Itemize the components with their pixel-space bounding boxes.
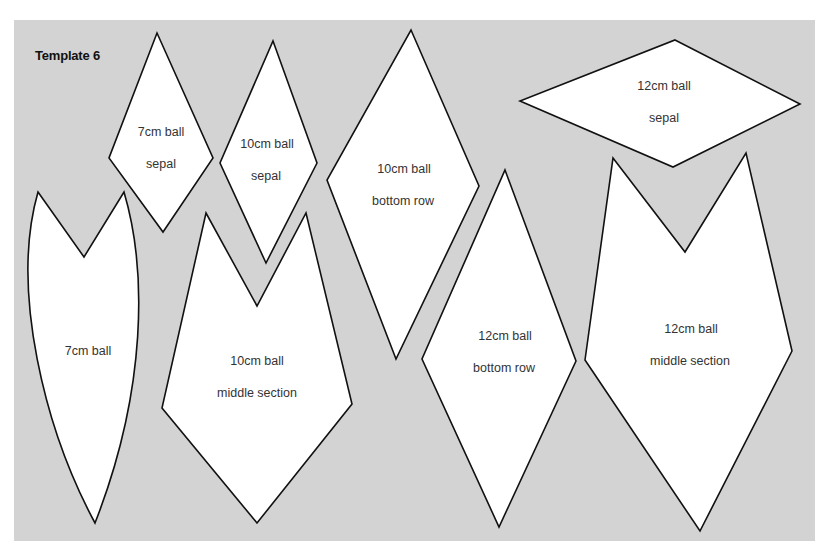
piece-label-line-1: 10cm ball <box>230 354 284 368</box>
piece-label-line-2: middle section <box>650 354 730 368</box>
template-sheet: Template 6 7cm ball sepal 10cm ball sepa… <box>0 0 837 553</box>
piece-label-line-2: bottom row <box>473 361 536 375</box>
piece-label-line-2: bottom row <box>372 194 435 208</box>
piece-label-line-1: 12cm ball <box>478 329 532 343</box>
piece-label-line-1: 10cm ball <box>377 162 431 176</box>
piece-label-line-1: 12cm ball <box>637 79 691 93</box>
piece-label-line-1: 7cm ball <box>138 125 185 139</box>
piece-label-line-1: 12cm ball <box>664 322 718 336</box>
piece-label-line-2: sepal <box>649 111 679 125</box>
template-title: Template 6 <box>35 48 100 63</box>
piece-label-line-2: middle section <box>217 386 297 400</box>
piece-label-line-1: 10cm ball <box>240 137 294 151</box>
piece-label-line-1: 7cm ball <box>65 344 112 358</box>
piece-label-line-2: sepal <box>251 169 281 183</box>
piece-label-line-2: sepal <box>146 157 176 171</box>
